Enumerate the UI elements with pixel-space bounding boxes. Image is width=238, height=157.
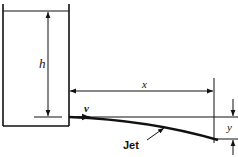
horizontal-distance-label: x <box>141 78 147 90</box>
jet-leader-arrow <box>147 128 164 140</box>
velocity-label: v <box>84 102 89 114</box>
jet-stream <box>69 117 218 140</box>
jet-diagram: h x v Jet y <box>0 0 238 157</box>
tank <box>3 4 69 126</box>
vertical-drop-label: y <box>226 121 232 133</box>
jet-label: Jet <box>123 139 139 151</box>
height-label: h <box>39 56 46 71</box>
diagram-svg: h x v Jet y <box>0 0 238 157</box>
